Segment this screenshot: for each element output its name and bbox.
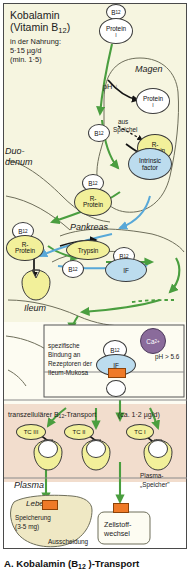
liver-storage-line1: Speicherung <box>15 514 51 521</box>
plasma-store-line1: Plasma- <box>140 472 163 479</box>
ph-down-annotation: pH ↓ <box>103 83 118 91</box>
mucosa-receptor <box>108 368 126 378</box>
plasma-store-line2: „Speicher" <box>140 481 170 488</box>
binding-text-line4: Ileum-Mukosa <box>48 369 88 376</box>
organ-duodenum-line2: denum <box>5 157 33 167</box>
organ-duodenum-line1: Duo- <box>5 146 25 156</box>
figure-root: Kobalamin (Vitamin B12) in der Nahrung: … <box>0 0 191 580</box>
saliva-source-line2: Speichel <box>113 126 138 133</box>
cell-uptake-receptor <box>113 503 129 513</box>
transcellular-transport-label: transzellulärer B12-Transport <box>8 411 96 420</box>
figure-caption: A. Kobalamin (B12 )-Transport <box>4 558 139 570</box>
intake-minimum: (min. 1·5) <box>10 56 42 64</box>
diagram-vectors <box>0 0 191 580</box>
saliva-source-line1: aus <box>118 118 128 125</box>
b12-released: B12 <box>62 260 84 278</box>
binding-text-line3: Rezeptoren der <box>48 360 92 367</box>
binding-text-line1: spezifische <box>48 342 80 349</box>
organ-pancreas-label: Pankreas <box>70 222 108 232</box>
intrinsic-factor-stomach: Intrinsicfactor <box>128 148 172 180</box>
if-complex-pancreas: IF <box>105 258 147 282</box>
plasma-label: Plasma <box>14 480 44 490</box>
protein-subscript: I <box>115 32 116 38</box>
figure-title-line2: (Vitamin B12) <box>10 22 70 35</box>
transcobalamin-1: TC I <box>126 424 154 440</box>
organ-stomach-label: Magen <box>135 64 163 74</box>
title-sub: 12 <box>58 26 66 35</box>
ph-ileum-annotation: pH > 5.6 <box>155 353 179 360</box>
liver-storage-line2: (3-5 mg) <box>15 523 39 530</box>
figure-title-line1: Kobalamin <box>10 10 60 22</box>
organ-ileum-label: Ileum <box>24 303 46 313</box>
r-protein-duodenum: R-Protein <box>74 188 112 216</box>
b12-carrier-3 <box>38 440 58 458</box>
metabolism-line1: Zellstoff- <box>104 521 131 529</box>
b12-absorbed <box>106 380 126 397</box>
b12-free-stomach: B12 <box>88 124 110 142</box>
liver-uptake-receptor <box>42 500 58 510</box>
transcobalamin-2: TC II <box>64 424 94 440</box>
protein-stomach: ProteinI <box>136 88 170 114</box>
binding-text-line2: Bindung an <box>48 351 80 358</box>
calcium-ion: Ca2+ <box>140 328 166 354</box>
b12-carrier-2 <box>86 440 106 458</box>
protein-dietary: ProteinI <box>99 18 133 44</box>
excretion-label: Ausscheidung <box>48 538 88 545</box>
trypsin-enzyme: Trypsin <box>66 240 110 260</box>
r-protein-pancreas: R-Protein <box>6 235 44 261</box>
transport-amount: (ca. 1·2 µg/d) <box>118 411 160 419</box>
b12-carrier-1 <box>148 440 168 458</box>
caption-sub: 12 <box>78 563 86 570</box>
metabolism-line2: wechsel <box>104 530 130 538</box>
transcobalamin-3: TC III <box>16 424 46 440</box>
